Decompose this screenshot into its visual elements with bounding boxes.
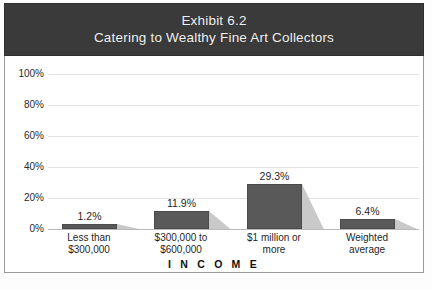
bar-value-label: 29.3% (241, 171, 308, 182)
category-label-line: $1 million or (228, 232, 320, 244)
bar (340, 219, 395, 229)
bar-shadow (395, 219, 417, 229)
chart-figure: Exhibit 6.2 Catering to Wealthy Fine Art… (0, 0, 432, 289)
bar (247, 184, 302, 229)
bar-shadow (209, 211, 231, 229)
category-label-line: $600,000 (135, 244, 227, 256)
category-label: Less than$300,000 (43, 232, 135, 255)
bar-value-label: 6.4% (334, 206, 401, 217)
category-label: Weightedaverage (321, 232, 413, 255)
bar-shadow (117, 224, 139, 229)
chart-title-line-2: Catering to Wealthy Fine Art Collectors (94, 30, 334, 46)
category-label-line: $300,000 (43, 244, 135, 256)
category-label: $300,000 to$600,000 (135, 232, 227, 255)
chart-title-band: Exhibit 6.2 Catering to Wealthy Fine Art… (4, 3, 424, 56)
bar-value-label: 1.2% (56, 211, 123, 222)
bar (154, 211, 209, 229)
category-label-line: more (228, 244, 320, 256)
category-label-line: $300,000 to (135, 232, 227, 244)
x-axis-title: I N C O M E (4, 258, 424, 270)
plot-area: 0%20%40%60%80%100% 1.2%11.9%29.3%6.4% Le… (4, 56, 424, 273)
bar (62, 224, 117, 229)
category-label-line: Weighted (321, 232, 413, 244)
category-label-line: Less than (43, 232, 135, 244)
category-label-line: average (321, 244, 413, 256)
bar-shadow (302, 184, 324, 229)
category-label: $1 million ormore (228, 232, 320, 255)
bar-value-label: 11.9% (148, 198, 215, 209)
chart-title-line-1: Exhibit 6.2 (181, 13, 246, 29)
